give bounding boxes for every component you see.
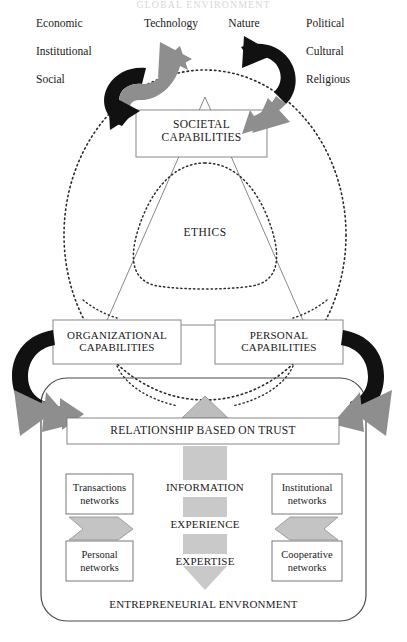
transactions-networks-label: Transactions networks <box>66 482 133 507</box>
left-networks-chevron-icon <box>69 517 133 540</box>
diagram-canvas: GLOBAL ENVIRONMENT Economic Institutiona… <box>0 0 407 642</box>
cooperative-networks-label: Cooperative networks <box>272 549 342 574</box>
global-word-nature: Nature <box>213 17 275 30</box>
global-word-political: Political <box>306 17 396 30</box>
central-up-arrowhead <box>182 396 228 418</box>
flow-shaft-segment-2 <box>183 497 227 517</box>
global-word-social: Social <box>36 73 128 86</box>
diagram-vector-layer <box>0 0 407 642</box>
page-title: GLOBAL ENVIRONMENT <box>0 0 407 10</box>
global-word-cultural: Cultural <box>306 45 396 58</box>
flow-shaft-segment-3 <box>183 534 227 554</box>
central-down-arrowhead <box>183 566 227 590</box>
institutional-networks-label: Institutional networks <box>272 482 342 507</box>
global-word-religious: Religious <box>306 73 396 86</box>
flow-label-information: INFORMATION <box>140 481 270 493</box>
flow-shaft-segment-1 <box>183 446 227 480</box>
right-networks-chevron-icon <box>275 517 338 540</box>
relationship-trust-label: RELATIONSHIP BASED ON TRUST <box>67 424 339 437</box>
global-word-institutional: Institutional <box>36 45 128 58</box>
global-word-technology: Technology <box>130 17 212 30</box>
organizational-capabilities-label: ORGANIZATIONAL CAPABILITIES <box>53 329 181 354</box>
societal-capabilities-label: SOCIETAL CAPABILITIES <box>136 118 267 144</box>
global-word-economic: Economic <box>36 17 128 30</box>
ethics-label: ETHICS <box>155 226 255 239</box>
personal-networks-label: Personal networks <box>66 549 133 574</box>
personal-capabilities-label: PERSONAL CAPABILITIES <box>215 329 343 354</box>
flow-label-expertise: EXPERTISE <box>140 555 270 567</box>
flow-label-experience: EXPERIENCE <box>140 518 270 530</box>
entrepreneurial-environment-label: ENTREPRENEURIAL ENVRONMENT <box>41 598 366 610</box>
